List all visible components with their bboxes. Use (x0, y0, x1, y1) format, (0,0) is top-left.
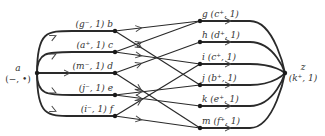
node-a (35, 71, 39, 75)
node-c (113, 50, 117, 54)
edge-f-i (115, 64, 200, 116)
sink-label: (k⁺, 1) (289, 73, 318, 83)
node-h (198, 40, 202, 44)
label-c: (a⁺, 1) c (77, 40, 114, 50)
edge-i-z (200, 64, 285, 73)
label-j: j (b⁺, 1) (200, 73, 237, 83)
edge-d-h (115, 42, 200, 73)
edge-e-k (115, 95, 200, 106)
node-b (113, 29, 117, 33)
label-h: h (d⁺, 1) (202, 30, 240, 40)
label-d: (m⁻, 1) d (73, 61, 114, 71)
arrow-icon (49, 33, 57, 41)
arrow-icon (49, 106, 57, 114)
source-label: (−, •) (5, 74, 31, 84)
label-b: (g⁻, 1) b (75, 19, 113, 29)
edges-layer (37, 18, 285, 131)
edge-g-z (200, 21, 285, 73)
node-j (198, 83, 202, 87)
node-k (198, 104, 202, 108)
node-f (113, 114, 117, 118)
sink-name: z (300, 62, 306, 72)
label-e: (j⁻, 1) e (79, 83, 113, 93)
label-k: k (e⁺, 1) (202, 94, 239, 104)
edge-f-m (115, 116, 200, 128)
node-e (113, 93, 117, 97)
label-g: g (c⁺, 1) (202, 9, 239, 19)
label-f: (i⁻, 1) f (81, 104, 115, 114)
flow-network-diagram: a (−, •) z (k⁺, 1) (g⁻, 1) b(a⁺, 1) c(m⁻… (0, 0, 325, 136)
source-name: a (15, 63, 20, 73)
node-d (113, 71, 117, 75)
node-m (198, 126, 202, 130)
node-g (198, 19, 202, 23)
node-z (283, 71, 287, 75)
label-m: m (f⁺, 1) (202, 116, 240, 126)
labels-layer: a (−, •) z (k⁺, 1) (g⁻, 1) b(a⁺, 1) c(m⁻… (5, 9, 318, 126)
label-i: i (c⁺, 1) (202, 52, 236, 62)
node-i (198, 62, 202, 66)
